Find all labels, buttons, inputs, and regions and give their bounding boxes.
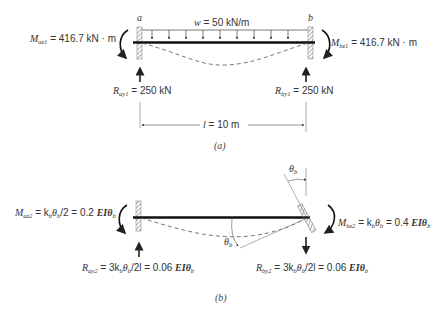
reaction-a-b-label: Ray2 = 3kbθb/2l = 0.06 EIθb xyxy=(82,263,194,275)
rotation-arc-mid xyxy=(232,219,238,246)
distributed-load xyxy=(142,30,308,39)
deflected-shape-b xyxy=(141,218,305,237)
rotation-top-label: θb xyxy=(289,164,297,176)
moment-arrow-b xyxy=(322,30,330,58)
rotation-arc-top xyxy=(288,179,306,181)
reaction-b-b-label: Rby2 = 3kbθb/2l = 0.06 EIθb xyxy=(256,263,368,275)
figure-a xyxy=(120,27,330,132)
moment-arrow-a-b xyxy=(119,205,127,233)
support-b-label: b xyxy=(308,13,313,23)
load-label: w = 50 kN/m xyxy=(194,18,249,28)
span-label: l = 10 m xyxy=(203,120,239,130)
moment-arrow-a xyxy=(120,30,128,58)
caption-a: (a) xyxy=(214,140,226,151)
caption-b: (b) xyxy=(215,292,227,303)
deflected-shape-a xyxy=(142,43,308,65)
moment-arrow-b-b xyxy=(325,205,334,233)
moment-b-b-label: Mbz2 = kbθb = 0.4 EIθb xyxy=(338,218,430,230)
moment-a-label: Maz1 = 416.7 kN · m xyxy=(30,34,116,46)
support-a-label: a xyxy=(137,13,142,23)
rotation-mid-label: θb xyxy=(224,237,232,249)
moment-a-b-label: Maz2 = kbθb/2 = 0.2 EIθb xyxy=(15,208,116,220)
reaction-b-label: Rby1 = 250 kN xyxy=(275,86,334,98)
moment-b-label: Mbz1 = 416.7 kN · m xyxy=(331,38,417,50)
reaction-a-label: Ray1 = 250 kN xyxy=(113,86,172,98)
fixed-support-a-b xyxy=(136,201,141,231)
